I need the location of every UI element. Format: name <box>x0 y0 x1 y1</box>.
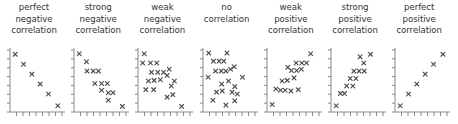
data-point-marker <box>224 103 228 107</box>
panel-caption-line: no <box>191 2 263 14</box>
data-point-marker <box>300 61 304 65</box>
data-point-marker <box>309 52 313 56</box>
panel-caption-line: perfect <box>0 2 70 14</box>
data-point-marker <box>432 62 436 66</box>
panel-caption-line: correlation <box>0 25 70 37</box>
data-point-marker <box>338 92 342 96</box>
scatter-plot-area <box>323 46 387 122</box>
panel-caption-line: perfect <box>383 2 455 14</box>
data-point-marker <box>285 78 289 82</box>
data-point-marker <box>283 88 287 92</box>
data-point-marker <box>232 85 236 89</box>
data-point-marker <box>150 70 154 74</box>
data-point-marker <box>362 61 366 65</box>
data-point-marker <box>56 104 60 108</box>
data-point-marker <box>292 76 296 80</box>
data-point-marker <box>47 92 51 96</box>
data-point-marker <box>107 91 111 95</box>
panel-caption-line: correlation <box>191 14 263 26</box>
data-point-marker <box>226 79 230 83</box>
data-point-marker <box>348 77 352 81</box>
data-point-marker <box>156 70 160 74</box>
correlation-scatterplot-figure: perfectnegativecorrelationstrongnegative… <box>0 0 458 124</box>
panel-caption-line: correlation <box>383 25 455 37</box>
data-point-marker <box>352 69 356 73</box>
panel-caption-line: weak <box>255 2 327 14</box>
data-point-marker <box>230 90 234 94</box>
data-point-marker <box>100 88 104 92</box>
data-point-marker <box>358 55 362 59</box>
data-point-marker <box>232 65 236 69</box>
data-point-marker <box>354 77 358 81</box>
panel-caption-line: negative <box>0 14 70 26</box>
data-point-marker <box>423 72 427 76</box>
panel-caption-line: correlation <box>62 25 134 37</box>
data-point-marker <box>407 92 411 96</box>
data-point-marker <box>106 82 110 86</box>
scatter-svg <box>323 46 387 122</box>
panel-caption-line: positive <box>255 14 327 26</box>
data-point-marker <box>100 82 104 86</box>
scatter-svg <box>2 46 66 122</box>
scatter-svg <box>387 46 451 122</box>
data-point-marker <box>225 51 229 55</box>
data-point-marker <box>77 52 81 56</box>
data-point-marker <box>107 98 111 102</box>
data-point-marker <box>304 61 308 65</box>
data-point-marker <box>166 95 170 99</box>
panel-caption: weakpositivecorrelation <box>255 2 327 37</box>
scatter-panel: weaknegativecorrelation <box>130 0 194 124</box>
panel-caption: strongnegativecorrelation <box>62 2 134 37</box>
scatter-panel: perfectpositivecorrelation <box>387 0 451 124</box>
data-point-marker <box>351 84 355 88</box>
panel-caption-line: weak <box>126 2 198 14</box>
data-point-marker <box>278 88 282 92</box>
data-point-group <box>398 52 444 107</box>
data-point-marker <box>398 104 402 108</box>
data-point-marker <box>294 61 298 65</box>
data-point-marker <box>224 69 228 73</box>
scatter-panel: strongpositivecorrelation <box>323 0 387 124</box>
data-point-marker <box>217 59 221 63</box>
data-point-marker <box>415 82 419 86</box>
data-point-marker <box>235 92 239 96</box>
scatter-plot-area <box>130 46 194 122</box>
data-point-marker <box>334 104 338 108</box>
scatter-svg <box>130 46 194 122</box>
scatter-plot-area <box>2 46 66 122</box>
data-point-marker <box>144 88 148 92</box>
data-point-marker <box>280 79 284 83</box>
panel-caption-line: correlation <box>255 25 327 37</box>
data-point-marker <box>289 89 293 93</box>
data-point-group <box>334 52 372 107</box>
data-point-marker <box>97 69 101 73</box>
data-point-marker <box>343 92 347 96</box>
data-point-marker <box>289 69 293 73</box>
data-point-marker <box>296 88 300 92</box>
panel-caption: weaknegativecorrelation <box>126 2 198 37</box>
data-point-marker <box>221 59 225 63</box>
data-point-marker <box>159 78 163 82</box>
scatter-plot-area <box>195 46 259 122</box>
data-point-marker <box>219 82 223 86</box>
data-point-marker <box>171 93 175 97</box>
data-point-marker <box>232 99 236 103</box>
data-point-marker <box>147 79 151 83</box>
data-point-marker <box>92 69 96 73</box>
data-point-marker <box>111 91 115 95</box>
scatter-panel: strongnegativecorrelation <box>66 0 130 124</box>
data-point-marker <box>168 67 172 71</box>
data-point-marker <box>22 62 26 66</box>
data-point-marker <box>345 84 349 88</box>
data-point-marker <box>170 84 174 88</box>
data-point-marker <box>166 74 170 78</box>
data-point-marker <box>121 105 125 109</box>
data-point-marker <box>270 103 274 107</box>
data-point-marker <box>13 52 17 56</box>
panel-caption: perfectpositivecorrelation <box>383 2 455 37</box>
data-point-marker <box>357 69 361 73</box>
data-point-marker <box>214 90 218 94</box>
data-point-marker <box>240 75 244 79</box>
scatter-svg <box>259 46 323 122</box>
data-point-group <box>206 51 244 107</box>
